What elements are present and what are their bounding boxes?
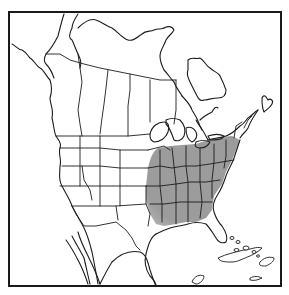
map-frame: [9, 12, 281, 286]
island: [230, 237, 234, 240]
range-map: [0, 0, 289, 295]
island: [236, 241, 240, 244]
island: [252, 251, 256, 254]
north-america-map: [0, 0, 289, 295]
island: [257, 255, 260, 257]
island: [243, 246, 249, 250]
island: [234, 249, 239, 252]
